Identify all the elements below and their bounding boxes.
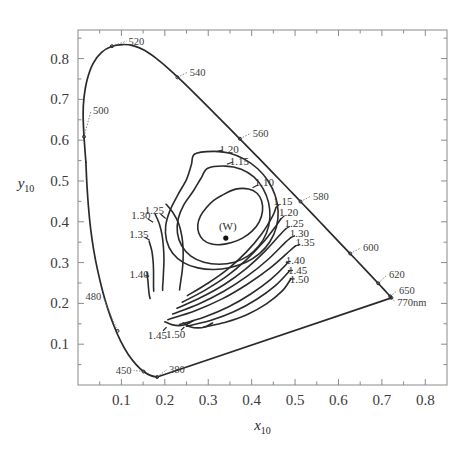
contour-label: 1.15 [230,155,250,167]
y-tick-label: 0.8 [50,51,69,67]
contour-line-1.30 [155,214,164,290]
contour-label: 1.35 [129,228,149,240]
contour-label: 1.50 [166,328,186,340]
contour-line-1.35 [149,241,154,291]
wavelength-label-620: 620 [389,269,405,280]
y-tick-label: 0.4 [50,214,69,230]
y-axis-label: y10 [16,175,35,194]
contour-label: 1.50 [290,273,310,285]
y-tick-label: 0.2 [50,295,69,311]
x-tick-label: 0.5 [286,392,305,408]
contour-label: 1.30 [131,209,151,221]
contour-labels: 1.101.151.201.251.301.351.401.451.501.15… [129,143,315,341]
x-tick-label: 0.1 [112,392,131,408]
contour-label: 1.15 [273,195,293,207]
x-tick-label: 0.6 [329,392,348,408]
y-tick-label: 0.3 [50,255,69,271]
chromaticity-diagram-figure: 0.10.20.30.40.50.60.70.80.10.20.30.40.50… [0,0,476,451]
y-tick-label: 0.1 [50,336,69,352]
contour-line-1.20 [165,151,278,269]
white-point-dot [223,235,228,240]
axis-tick-labels: 0.10.20.30.40.50.60.70.80.10.20.30.40.50… [50,51,434,408]
contour-label: 1.35 [295,236,315,248]
contour-line-1.10 [198,188,263,244]
y-tick-label: 0.6 [50,132,69,148]
contour-arc-1.50 [204,279,291,327]
wavelength-label-380: 380 [169,364,185,375]
wavelength-label-520: 520 [129,36,145,47]
spectral-locus-curve [83,45,391,378]
white-point-marker: (W) [219,220,237,241]
y-tick-label: 0.7 [50,91,69,107]
white-point-label: (W) [219,220,237,233]
wavelength-markers: 380450480500520540560580600620650770nm [83,36,427,379]
wavelength-label-580: 580 [313,191,329,202]
contour-label: 1.10 [255,176,275,188]
wavelength-label-770nm: 770nm [397,297,426,308]
contour-label: 1.20 [219,143,239,155]
x-tick-label: 0.7 [373,392,392,408]
wavelength-label-600: 600 [363,242,379,253]
contour-label: 1.45 [148,329,168,341]
wavelength-label-480: 480 [85,291,101,302]
wavelength-label-560: 560 [253,128,269,139]
wavelength-label-450: 450 [116,365,132,376]
contour-label: 1.40 [130,268,150,280]
boundary-curve-purple-line [157,298,391,377]
y-tick-label: 0.5 [50,173,69,189]
x-tick-label: 0.8 [416,392,435,408]
wavelength-label-650: 650 [399,285,415,296]
wavelength-label-540: 540 [190,67,206,78]
x-tick-label: 0.4 [242,392,261,408]
wavelength-label-500: 500 [93,105,109,116]
x-tick-label: 0.2 [155,392,174,408]
x-axis-label: x10 [253,417,271,436]
plot-canvas: 0.10.20.30.40.50.60.70.80.10.20.30.40.50… [0,0,476,451]
x-tick-label: 0.3 [199,392,218,408]
